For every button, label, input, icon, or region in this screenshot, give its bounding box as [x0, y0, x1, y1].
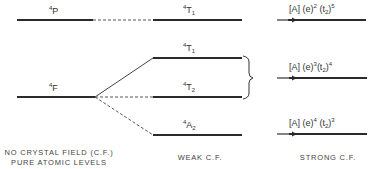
core-label: [A] [289, 118, 300, 128]
term-subscript: 1 [192, 10, 195, 16]
caption-line-1: NO CRYSTAL FIELD (C.F.) [0, 148, 118, 158]
caption-weak-field: WEAK C.F. [165, 153, 235, 163]
label-weak-4T1-upper: 4T1 [183, 4, 195, 16]
term-symbol: P [52, 6, 58, 16]
term-symbol: F [52, 83, 58, 93]
e-count: 4 [314, 117, 317, 123]
caption-strong-field: STRONG C.F. [292, 153, 364, 163]
core-label: [A] [289, 62, 300, 72]
label-strong-config-3: [A] (e)4 (t2)3 [289, 117, 335, 129]
label-weak-4A2: 4A2 [183, 119, 196, 131]
e-orbital: (e) [303, 118, 314, 128]
core-label: [A] [289, 4, 300, 14]
term-subscript: 1 [192, 48, 195, 54]
bracket-icon [243, 56, 253, 99]
term-subscript: 2 [192, 87, 195, 93]
label-strong-config-2: [A] (e)3(t2)4 [289, 61, 332, 73]
label-weak-4T1: 4T1 [183, 42, 195, 54]
t-count: 5 [331, 3, 334, 9]
caption-no-field: NO CRYSTAL FIELD (C.F.) PURE ATOMIC LEVE… [0, 148, 118, 168]
t-count: 3 [331, 117, 334, 123]
e-count: 2 [314, 3, 317, 9]
label-weak-4T2: 4T2 [183, 81, 195, 93]
label-strong-config-1: [A] (e)2 (t2)5 [289, 3, 335, 15]
label-4F: 4F [49, 82, 58, 93]
term-subscript: 2 [192, 125, 195, 131]
e-orbital: (e) [303, 62, 314, 72]
correlation-4F-4T1 [95, 58, 153, 97]
label-4P: 4P [49, 5, 58, 16]
caption-line-2: PURE ATOMIC LEVELS [0, 158, 118, 168]
correlation-4F-4A2 [95, 97, 153, 135]
e-orbital: (e) [303, 4, 314, 14]
t-count: 4 [329, 61, 332, 67]
